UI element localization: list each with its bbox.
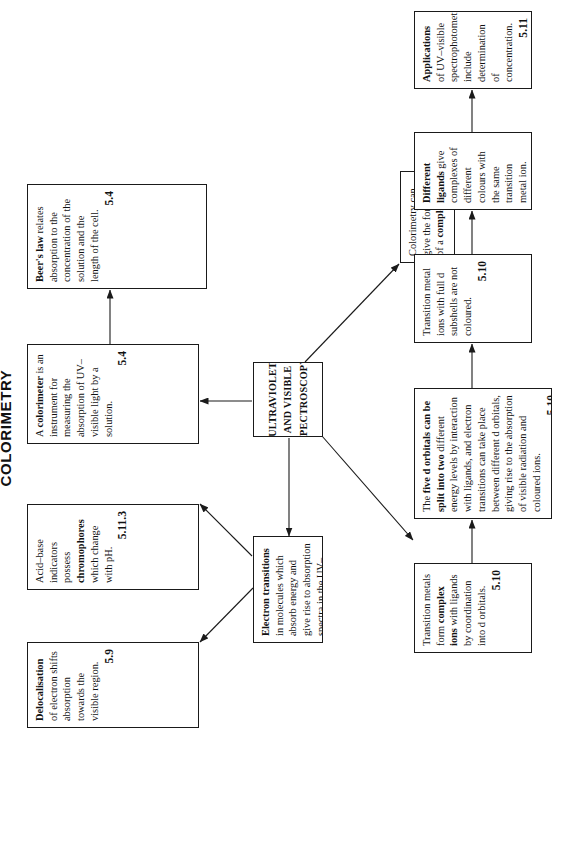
node-full-d-subshells-text: Transition metal ions with full d subshe… (421, 267, 473, 336)
center-line-1: ULTRAVIOLET (265, 362, 280, 437)
node-colorimeter-text2: is an instrument for measuring the absor… (34, 354, 114, 437)
node-beers-law-ref: 5.4 (103, 191, 116, 206)
concept-map-rotator: COLORIMETRY (0, 0, 584, 856)
node-delocalisation-text: of electron shifts absorption towards th… (48, 651, 100, 721)
node-beers-law-lead: Beer's law (34, 236, 45, 282)
node-applications-text: of UV–visible spectrophotometry include … (435, 11, 515, 82)
node-delocalisation-lead: Delocalisation (34, 659, 45, 721)
connector-center-to-colorimetry-formula (305, 264, 399, 362)
node-five-d-orbitals-text2: different energy levels by interaction w… (435, 395, 542, 512)
node-applications-ref: 5.11 (517, 18, 530, 38)
node-colorimeter-ref: 5.4 (116, 351, 129, 366)
node-electron-transitions-lead: Electron transitions (260, 548, 271, 636)
node-center-topic[interactable]: ULTRAVIOLET AND VISIBLE SPECTROSCOPY (253, 362, 323, 437)
connector-electron-to-delocalisation (200, 588, 253, 642)
node-five-d-orbitals-ref: 5.10 (545, 395, 552, 415)
node-indicators-text2: which change with pH. (89, 526, 114, 583)
connector-electron-to-indicators (200, 504, 252, 556)
node-five-d-orbitals[interactable]: The five d orbitals can be split into tw… (414, 388, 552, 519)
node-colorimeter[interactable]: A colorimeter is an instrument for measu… (27, 344, 199, 444)
node-five-d-orbitals-text: The (421, 493, 432, 512)
node-applications[interactable]: Applications of UV–visible spectrophotom… (414, 11, 532, 89)
node-applications-lead: Applications (421, 26, 432, 82)
node-delocalisation[interactable]: Delocalisation of electron shifts absorp… (27, 642, 199, 728)
node-full-d-subshells-ref: 5.10 (476, 261, 489, 281)
node-different-ligands-text: give complexes of different colours with… (435, 147, 528, 203)
node-transition-metals-ref: 5.10 (490, 570, 503, 590)
node-different-ligands[interactable]: Different ligands give complexes of diff… (414, 132, 532, 210)
node-colorimeter-bold: colorimeter (34, 376, 45, 427)
node-electron-transitions-text: in molecules which absorb energy and giv… (274, 543, 323, 636)
node-indicators-ref: 5.11.3 (116, 511, 129, 539)
node-beers-law[interactable]: Beer's law relates absorption to the con… (27, 184, 207, 289)
node-indicators-bold: chromophores (75, 519, 86, 583)
node-electron-transitions[interactable]: Electron transitions in molecules which … (253, 536, 323, 643)
connector-center-to-transition-metals (322, 436, 413, 540)
node-full-d-subshells[interactable]: Transition metal ions with full d subshe… (414, 254, 532, 343)
node-transition-metals[interactable]: Transition metals form complex ions with… (414, 563, 532, 653)
center-line-3: SPECTROSCOPY (296, 362, 311, 437)
node-delocalisation-ref: 5.9 (103, 649, 116, 664)
center-line-2: AND VISIBLE (280, 362, 295, 437)
concept-map-canvas: COLORIMETRY (0, 0, 584, 856)
node-different-ligands-ref: 5.10 (531, 139, 532, 159)
node-colorimeter-text: A (34, 427, 45, 437)
node-indicators[interactable]: Acid–base indicators possess chromophore… (27, 504, 199, 590)
node-indicators-text: Acid–base indicators possess (34, 539, 72, 583)
